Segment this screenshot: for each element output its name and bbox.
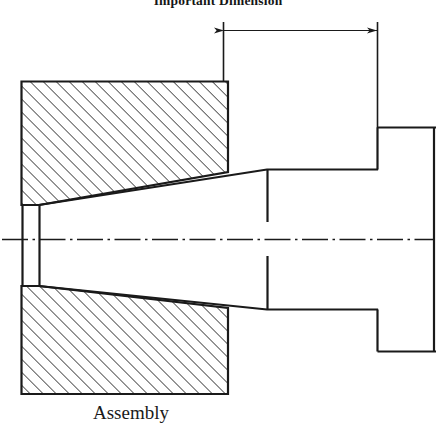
assembly-section-drawing xyxy=(0,0,436,433)
figure-caption: Assembly xyxy=(0,402,262,424)
figure-container: Important Dimension Assembly xyxy=(0,0,436,433)
housing-upper-section xyxy=(22,82,229,206)
dimension-title-label: Important Dimension xyxy=(0,0,436,8)
dimension-extension-lines xyxy=(224,22,378,128)
